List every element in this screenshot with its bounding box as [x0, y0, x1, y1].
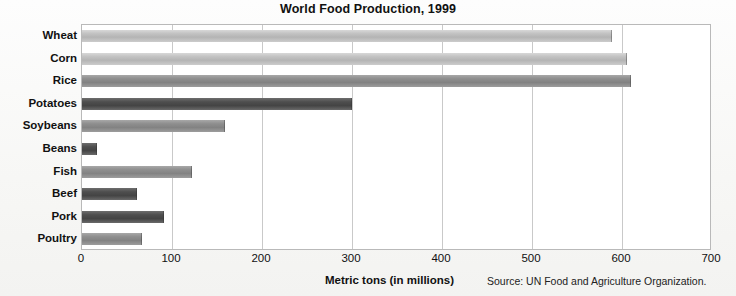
- x-tick-200: 200: [236, 252, 286, 264]
- y-label-wheat: Wheat: [0, 24, 77, 47]
- bar-beef: [82, 188, 137, 200]
- bar-row: [82, 228, 710, 251]
- x-tick-600: 600: [596, 252, 646, 264]
- bar-pork: [82, 211, 164, 223]
- y-label-beans: Beans: [0, 137, 77, 160]
- x-tick-0: 0: [56, 252, 106, 264]
- x-tick-100: 100: [146, 252, 196, 264]
- y-label-poultry: Poultry: [0, 227, 77, 250]
- bar-rice: [82, 75, 631, 87]
- bar-row: [82, 161, 710, 184]
- x-tick-500: 500: [506, 252, 556, 264]
- x-tick-700: 700: [686, 252, 736, 264]
- x-tick-400: 400: [416, 252, 466, 264]
- bar-row: [82, 206, 710, 229]
- source-note: Source: UN Food and Agriculture Organiza…: [487, 275, 706, 287]
- y-label-rice: Rice: [0, 69, 77, 92]
- bar-row: [82, 70, 710, 93]
- y-label-fish: Fish: [0, 160, 77, 183]
- y-label-corn: Corn: [0, 47, 77, 70]
- bar-potatoes: [82, 98, 352, 110]
- bar-row: [82, 138, 710, 161]
- bar-row: [82, 25, 710, 48]
- chart-figure: World Food Production, 1999 WheatCornRic…: [0, 0, 736, 296]
- chart-title: World Food Production, 1999: [0, 2, 736, 16]
- y-label-beef: Beef: [0, 182, 77, 205]
- y-label-pork: Pork: [0, 205, 77, 228]
- y-label-soybeans: Soybeans: [0, 114, 77, 137]
- bar-wheat: [82, 30, 612, 42]
- x-axis-title: Metric tons (in millions): [325, 274, 454, 286]
- plot-area: [81, 24, 711, 250]
- x-axis-tick-labels: 0100200300400500600700: [0, 252, 736, 270]
- bar-poultry: [82, 233, 142, 245]
- bar-fish: [82, 166, 192, 178]
- bar-row: [82, 48, 710, 71]
- bar-corn: [82, 53, 627, 65]
- bar-row: [82, 183, 710, 206]
- bar-row: [82, 93, 710, 116]
- x-tick-300: 300: [326, 252, 376, 264]
- bar-row: [82, 115, 710, 138]
- bars-layer: [82, 25, 710, 249]
- y-axis-category-labels: WheatCornRicePotatoesSoybeansBeansFishBe…: [0, 24, 77, 250]
- bar-soybeans: [82, 120, 225, 132]
- bar-beans: [82, 143, 97, 155]
- y-label-potatoes: Potatoes: [0, 92, 77, 115]
